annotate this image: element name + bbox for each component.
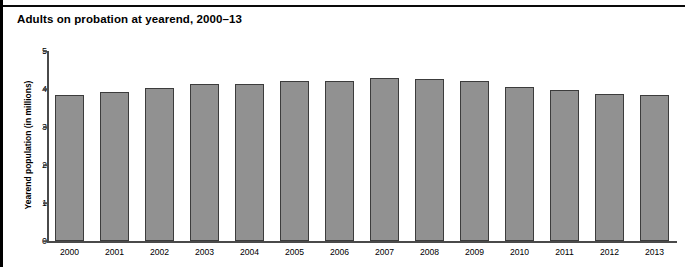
x-axis-line xyxy=(47,241,677,243)
bar xyxy=(595,94,625,241)
bar xyxy=(190,84,220,241)
y-axis-tick-label: 0 xyxy=(7,236,47,246)
x-axis-tick-label: 2008 xyxy=(420,247,439,257)
y-axis-tick-label: 2 xyxy=(7,160,47,170)
x-axis-tick-label: 2000 xyxy=(60,247,79,257)
x-axis-tick-label: 2004 xyxy=(240,247,259,257)
x-axis-tick-label: 2006 xyxy=(330,247,349,257)
x-axis-tick-label: 2007 xyxy=(375,247,394,257)
bar xyxy=(145,88,175,241)
figure-top-rule xyxy=(3,5,685,7)
y-axis-tick-label: 5 xyxy=(7,46,47,56)
y-axis-tick-mark xyxy=(43,202,47,204)
y-axis-tick-label: 3 xyxy=(7,122,47,132)
y-axis-tick-label: 4 xyxy=(7,84,47,94)
figure-left-rule xyxy=(0,0,3,267)
bar xyxy=(640,95,670,241)
bar xyxy=(55,95,85,241)
bar xyxy=(370,78,400,241)
y-axis-tick-mark xyxy=(43,164,47,166)
x-axis-tick-label: 2005 xyxy=(285,247,304,257)
bar xyxy=(100,92,130,241)
x-axis-tick-label: 2002 xyxy=(150,247,169,257)
bar xyxy=(235,84,265,241)
bar xyxy=(460,81,490,241)
y-axis-tick-label: 1 xyxy=(7,198,47,208)
y-axis-tick-mark xyxy=(43,126,47,128)
bar xyxy=(415,79,445,241)
y-axis-tick-mark xyxy=(43,240,47,242)
x-axis-tick-label: 2001 xyxy=(105,247,124,257)
x-axis-tick-label: 2003 xyxy=(195,247,214,257)
chart-figure: Adults on probation at yearend, 2000–13 … xyxy=(0,0,685,267)
y-axis-tick-mark xyxy=(43,88,47,90)
x-axis-tick-label: 2009 xyxy=(465,247,484,257)
bar xyxy=(505,87,535,241)
x-axis-tick-label: 2011 xyxy=(555,247,573,257)
x-axis-tick-label: 2012 xyxy=(600,247,619,257)
x-axis-tick-label: 2010 xyxy=(510,247,529,257)
bar xyxy=(325,81,355,241)
bar xyxy=(550,90,580,241)
x-axis-tick-label: 2013 xyxy=(645,247,664,257)
bar xyxy=(280,81,310,241)
y-axis-tick-mark xyxy=(43,50,47,52)
chart-title: Adults on probation at yearend, 2000–13 xyxy=(17,13,242,25)
plot-area: 012345 xyxy=(47,51,677,241)
